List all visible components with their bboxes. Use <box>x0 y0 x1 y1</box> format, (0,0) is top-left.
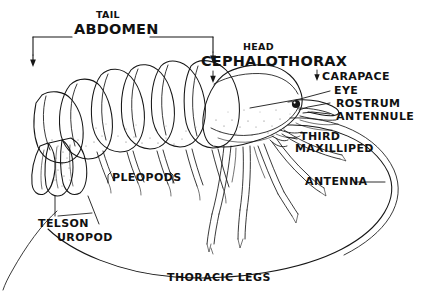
cephalothorax-leader <box>210 71 216 83</box>
label-rostrum: ROSTRUM <box>336 98 400 109</box>
label-head: HEAD <box>243 42 274 52</box>
label-maxilliped: MAXILLIPED <box>295 143 374 154</box>
label-antennule: ANTENNULE <box>336 111 414 122</box>
abdomen-bracket <box>30 37 216 67</box>
label-cephalothorax: CEPHALOTHORAX <box>201 54 347 69</box>
shrimp-anatomy-diagram: TAIL ABDOMEN HEAD CEPHALOTHORAX CARAPACE… <box>0 0 434 298</box>
label-eye: EYE <box>334 85 358 96</box>
label-telson: TELSON <box>38 218 89 229</box>
label-antenna: ANTENNA <box>305 176 367 187</box>
carapace-leader <box>314 70 319 81</box>
label-tail: TAIL <box>96 10 120 20</box>
label-pleopods: PLEOPODS <box>112 172 182 183</box>
label-third: THIRD <box>300 131 340 142</box>
third-maxilliped <box>270 136 288 147</box>
cephalothorax-body <box>203 65 302 147</box>
telson-uropod-fan <box>32 138 87 196</box>
label-abdomen: ABDOMEN <box>74 22 159 37</box>
label-carapace: CARAPACE <box>322 71 390 82</box>
label-uropod: UROPOD <box>57 232 113 243</box>
abdomen-segments <box>34 61 239 163</box>
caption-thoracic-legs: THORACIC LEGS <box>167 272 271 283</box>
